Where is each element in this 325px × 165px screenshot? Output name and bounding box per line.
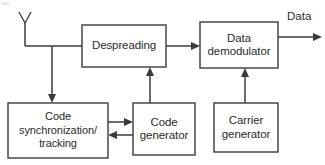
block-despreading xyxy=(82,25,166,67)
wire-carriergen-to-demodulator xyxy=(241,68,249,103)
wire-despreading-to-demodulator xyxy=(166,42,200,50)
block-diagram: Despreading Data demodulator Code synchr… xyxy=(0,0,325,165)
block-carrier-generator xyxy=(214,103,278,152)
diagram-canvas xyxy=(0,0,325,165)
wire-codegen-to-despreading xyxy=(146,67,154,103)
wire-sync-to-codegen xyxy=(108,118,133,126)
wire-antenna-to-sync xyxy=(48,46,56,103)
antenna-icon xyxy=(19,12,31,46)
block-code-synchronization-tracking xyxy=(8,103,108,158)
block-code-generator xyxy=(133,103,195,155)
signal-label-data-output: Data xyxy=(287,10,311,23)
wire-codegen-to-sync xyxy=(108,131,133,139)
block-data-demodulator xyxy=(200,22,278,68)
wire-data-output xyxy=(278,33,322,41)
